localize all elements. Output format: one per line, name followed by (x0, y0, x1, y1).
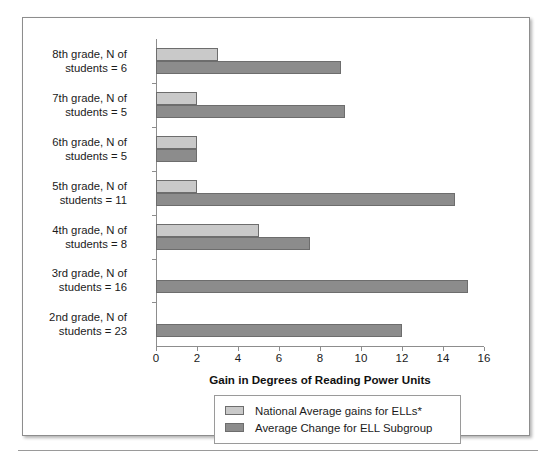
category-row: 4th grade, N of students = 8 (134, 215, 486, 259)
x-axis-tick (443, 347, 444, 351)
x-axis-tick (197, 347, 198, 351)
category-label: 6th grade, N of students = 5 (0, 135, 127, 163)
x-axis-tick (279, 347, 280, 351)
bar-group (156, 83, 486, 127)
bar-group (156, 127, 486, 171)
category-row: 7th grade, N of students = 5 (134, 83, 486, 127)
legend-item: National Average gains for ELLs* (225, 402, 450, 419)
x-axis-tick-label: 4 (235, 352, 241, 364)
category-label: 2nd grade, N of students = 23 (0, 310, 127, 338)
category-label: 8th grade, N of students = 6 (0, 47, 127, 75)
legend-label: National Average gains for ELLs* (255, 405, 422, 417)
category-row: 3rd grade, N of students = 16 (134, 259, 486, 303)
bar-group (156, 302, 486, 346)
x-axis-ticks: 0246810121416 (156, 347, 484, 369)
legend-item: Average Change for ELL Subgroup (225, 419, 450, 436)
bar-national-average (156, 180, 197, 193)
x-axis-tick (484, 347, 485, 351)
legend-swatch-national-average (225, 406, 244, 415)
category-label: 7th grade, N of students = 5 (0, 91, 127, 119)
bar-ell-subgroup (156, 324, 402, 337)
plot-area: 8th grade, N of students = 67th grade, N… (134, 29, 486, 359)
bar-ell-subgroup (156, 61, 341, 74)
category-label: 5th grade, N of students = 11 (0, 179, 127, 207)
x-axis-tick (156, 347, 157, 351)
legend-swatch-ell-subgroup (225, 423, 244, 432)
category-row: 6th grade, N of students = 5 (134, 127, 486, 171)
category-label: 4th grade, N of students = 8 (0, 223, 127, 251)
x-axis-tick (320, 347, 321, 351)
x-axis-tick (361, 347, 362, 351)
x-axis-tick-label: 14 (437, 352, 450, 364)
x-axis-tick-label: 12 (396, 352, 409, 364)
bar-group (156, 215, 486, 259)
bar-ell-subgroup (156, 280, 468, 293)
category-label: 3rd grade, N of students = 16 (0, 266, 127, 294)
bar-group (156, 39, 486, 83)
bar-ell-subgroup (156, 237, 310, 250)
bar-ell-subgroup (156, 193, 455, 206)
category-row: 5th grade, N of students = 11 (134, 171, 486, 215)
chart-legend: National Average gains for ELLs* Average… (214, 395, 461, 444)
category-row: 2nd grade, N of students = 23 (134, 302, 486, 346)
x-axis-tick-label: 16 (478, 352, 491, 364)
x-axis-tick-label: 0 (153, 352, 159, 364)
bar-ell-subgroup (156, 149, 197, 162)
x-axis-tick-label: 6 (276, 352, 282, 364)
bar-national-average (156, 224, 259, 237)
x-axis-tick-label: 8 (317, 352, 323, 364)
category-row: 8th grade, N of students = 6 (134, 39, 486, 83)
bar-group (156, 171, 486, 215)
bar-national-average (156, 136, 197, 149)
x-axis-tick (238, 347, 239, 351)
x-axis-tick-label: 2 (194, 352, 200, 364)
page-divider-rule (18, 450, 538, 451)
bar-group (156, 259, 486, 303)
legend-label: Average Change for ELL Subgroup (255, 422, 432, 434)
x-axis-title: Gain in Degrees of Reading Power Units (156, 373, 484, 386)
bar-ell-subgroup (156, 105, 345, 118)
x-axis-tick (402, 347, 403, 351)
bar-national-average (156, 48, 218, 61)
chart-figure-frame: 8th grade, N of students = 67th grade, N… (22, 17, 530, 436)
x-axis-tick-label: 10 (355, 352, 368, 364)
bar-national-average (156, 92, 197, 105)
